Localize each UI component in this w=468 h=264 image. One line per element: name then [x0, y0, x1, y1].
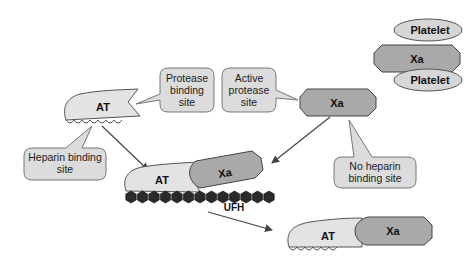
at-product-heparin-site	[289, 247, 337, 250]
callout-heparin-binding-site: Heparin binding site	[24, 126, 106, 180]
callout-no-heparin-binding-line2: binding site	[348, 172, 401, 184]
arrow-xa-to-complex	[272, 117, 330, 163]
callout-no-heparin-binding-site: No heparin binding site	[334, 120, 416, 188]
xa-product-label: Xa	[386, 225, 400, 237]
heparin-bead	[264, 191, 274, 203]
factor-xa-free: Xa	[300, 89, 376, 116]
heparin-bead	[195, 191, 205, 203]
heparin-bead	[252, 191, 262, 203]
antithrombin-free: AT	[65, 89, 140, 123]
heparin-bead	[160, 191, 170, 203]
callout-protease-binding-line1: Protease	[166, 72, 208, 84]
ternary-complex: AT Xa UFH	[125, 151, 274, 213]
at-ternary-label: AT	[155, 174, 169, 186]
callout-active-protease-site: Active protease site	[222, 68, 298, 112]
callout-protease-binding-line2: binding	[170, 84, 204, 96]
heparin-bead	[149, 191, 159, 203]
at-product-label: AT	[321, 230, 335, 242]
callout-active-protease-line1: Active	[235, 72, 264, 84]
xa-platelet-label: Xa	[410, 53, 424, 65]
at-free-label: AT	[96, 101, 110, 113]
ufh-label: UFH	[224, 202, 245, 213]
heparin-bead	[172, 191, 182, 203]
platelet-xa-complex: Platelet Xa Platelet	[374, 19, 462, 91]
callout-no-heparin-binding-line1: No heparin	[349, 160, 401, 172]
heparin-bead	[126, 191, 136, 203]
diagram-canvas: Platelet Xa Platelet AT Protease binding…	[0, 0, 468, 264]
callout-active-protease-line2: protease	[229, 84, 270, 96]
platelet-top-label: Platelet	[410, 24, 449, 36]
at-free-heparin-site	[66, 120, 122, 123]
at-xa-product: AT Xa	[288, 217, 432, 250]
xa-free-label: Xa	[330, 97, 344, 109]
callout-protease-binding-line3: site	[179, 96, 196, 108]
diagram: Platelet Xa Platelet AT Protease binding…	[0, 0, 468, 264]
callout-active-protease-line3: site	[241, 96, 258, 108]
heparin-bead	[137, 191, 147, 203]
callout-protease-binding-site: Protease binding site	[136, 68, 214, 112]
ufh-heparin-chain	[126, 191, 274, 203]
callout-heparin-binding-line1: Heparin binding	[28, 151, 102, 163]
heparin-bead	[183, 191, 193, 203]
heparin-bead	[206, 191, 216, 203]
arrow-complex-to-product	[208, 212, 272, 230]
platelet-bottom-label: Platelet	[410, 74, 449, 86]
arrow-at-to-complex	[102, 126, 148, 170]
callout-heparin-binding-line2: site	[57, 163, 74, 175]
